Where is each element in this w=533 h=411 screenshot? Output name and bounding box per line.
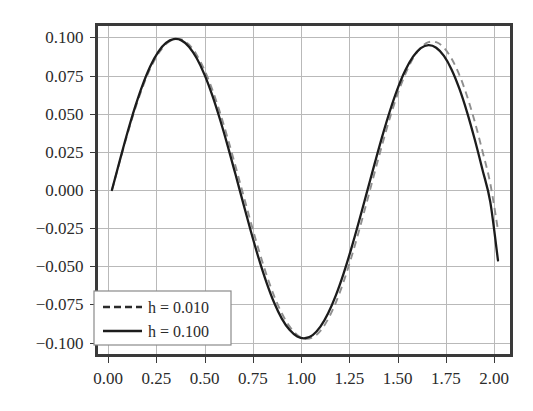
x-tick-label-4: 1.00 — [286, 369, 316, 388]
legend-label-1: h = 0.100 — [148, 323, 209, 340]
x-tick-label-8: 2.00 — [479, 369, 509, 388]
y-tick-label-0: 0.100 — [45, 28, 83, 47]
y-tick-label-2: 0.050 — [45, 105, 83, 124]
legend-label-0: h = 0.010 — [148, 299, 209, 316]
chart-legend: h = 0.010h = 0.100 — [94, 291, 231, 345]
x-tick-label-0: 0.00 — [93, 369, 123, 388]
chart-figure: 0.1000.0750.0500.0250.000−0.025−0.050−0.… — [0, 0, 533, 411]
y-tick-label-6: −0.050 — [36, 257, 84, 276]
x-tick-label-7: 1.75 — [431, 369, 461, 388]
x-tick-label-2: 0.50 — [190, 369, 220, 388]
x-axis-tick-labels: 0.000.250.500.751.001.251.501.752.00 — [93, 369, 509, 388]
y-tick-label-1: 0.075 — [45, 67, 83, 86]
y-tick-label-7: −0.075 — [36, 295, 84, 314]
y-tick-label-4: 0.000 — [45, 181, 83, 200]
x-tick-label-6: 1.50 — [383, 369, 413, 388]
y-tick-label-3: 0.025 — [45, 143, 83, 162]
y-tick-label-5: −0.025 — [36, 219, 84, 238]
x-tick-label-1: 0.25 — [141, 369, 171, 388]
x-tick-label-3: 0.75 — [238, 369, 268, 388]
x-tick-label-5: 1.25 — [334, 369, 364, 388]
line-chart: 0.1000.0750.0500.0250.000−0.025−0.050−0.… — [0, 0, 533, 411]
y-tick-label-8: −0.100 — [36, 334, 84, 353]
